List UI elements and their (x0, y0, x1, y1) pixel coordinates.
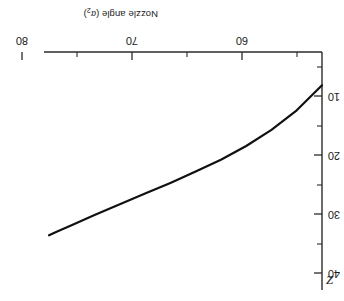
y-axis-title: Z (326, 272, 333, 288)
x-axis-major-ticks (22, 52, 242, 60)
x-axis-title: Nozzle angle (α2) (84, 7, 158, 20)
x-tick-label-0: 80 (16, 35, 28, 47)
x-axis-minor-ticks (77, 52, 297, 57)
chart-figure: 80 70 60 10 20 30 40 Nozzle angle (α2) Z (0, 0, 344, 301)
y-tick-label-1: 20 (328, 150, 340, 162)
y-tick-label-2: 30 (328, 209, 340, 221)
x-axis-title-close: ) (84, 9, 87, 20)
alpha-subscript: 2 (87, 7, 91, 14)
x-tick-label-1: 70 (126, 35, 138, 47)
data-curve-series-0 (49, 85, 322, 235)
plot-axes-and-curve (0, 0, 344, 301)
y-tick-label-0: 10 (328, 91, 340, 103)
alpha-symbol: α (91, 9, 96, 19)
rotated-plot-canvas: 80 70 60 10 20 30 40 Nozzle angle (α2) (0, 0, 344, 301)
x-axis-title-main: Nozzle angle ( (96, 9, 158, 20)
x-tick-label-2: 60 (236, 35, 248, 47)
